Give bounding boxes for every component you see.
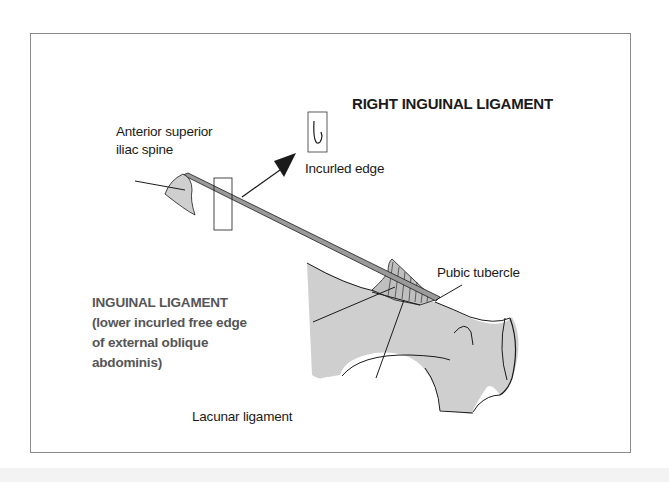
label-inguinal-ligament-line1: INGUINAL LIGAMENT <box>92 293 228 312</box>
label-lacunar-ligament: Lacunar ligament <box>192 408 292 425</box>
inguinal-ligament-illustration <box>0 0 669 482</box>
label-asis-line2: iliac spine <box>116 141 173 158</box>
inset-box <box>308 112 327 152</box>
diagram-title: RIGHT INGUINAL LIGAMENT <box>352 95 553 112</box>
label-asis-line1: Anterior superior <box>116 123 212 140</box>
label-pubic-tubercle: Pubic tubercle <box>437 264 520 281</box>
arrow-head-icon <box>274 153 296 177</box>
label-inguinal-ligament-line3: of external oblique <box>92 333 208 352</box>
label-incurled-edge: Incurled edge <box>305 160 384 177</box>
label-inguinal-ligament-line4: abdominis) <box>92 353 162 372</box>
label-inguinal-ligament-line2: (lower incurled free edge <box>92 313 247 332</box>
asis-bone-shape <box>165 174 195 215</box>
magnified-region-marker <box>214 178 232 230</box>
